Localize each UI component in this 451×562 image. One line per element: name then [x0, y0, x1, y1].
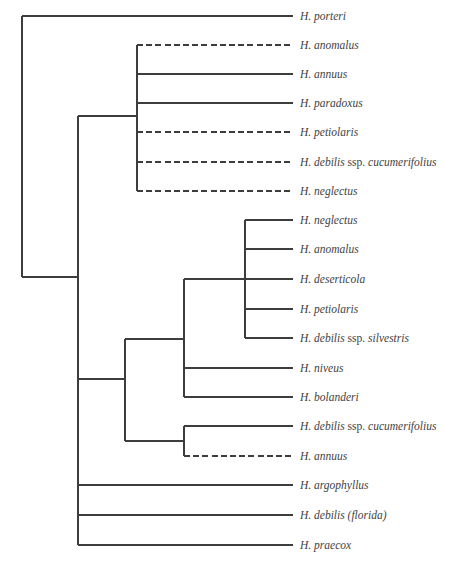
taxon-label-14-h-bolanderi: H. bolanderi	[299, 391, 359, 403]
taxon-label-8-h-neglectus: H. neglectus	[299, 214, 358, 227]
taxon-label-9-h-anomalus: H. anomalus	[299, 243, 359, 255]
taxon-label-12-h-debilis-ssp-silvestris: H. debilis ssp. silvestris	[299, 332, 409, 345]
taxon-label-6-h-debilis-ssp-cucumerifolius: H. debilis ssp. cucumerifolius	[299, 156, 437, 169]
taxon-label-10-h-deserticola: H. deserticola	[299, 273, 365, 285]
phylogenetic-tree-figure: H. porteriH. anomalusH. annuusH. paradox…	[0, 0, 451, 562]
taxon-label-17-h-argophyllus: H. argophyllus	[299, 479, 369, 492]
taxon-label-11-h-petiolaris: H. petiolaris	[299, 303, 359, 316]
taxon-label-18-h-debilis-florida: H. debilis (florida)	[299, 509, 387, 522]
taxon-label-2-h-anomalus: H. anomalus	[299, 39, 359, 51]
taxon-label-1-h-porteri: H. porteri	[299, 10, 346, 23]
cladogram-svg: H. porteriH. anomalusH. annuusH. paradox…	[0, 0, 451, 562]
taxon-label-19-h-praecox: H. praecox	[299, 539, 352, 552]
taxon-label-3-h-annuus: H. annuus	[299, 68, 348, 80]
taxon-label-13-h-niveus: H. niveus	[299, 362, 344, 374]
taxon-label-5-h-petiolaris: H. petiolaris	[299, 126, 359, 139]
taxon-label-16-h-annuus: H. annuus	[299, 450, 348, 462]
taxon-label-4-h-paradoxus: H. paradoxus	[299, 97, 363, 110]
taxon-label-15-h-debilis-ssp-cucumerifolius: H. debilis ssp. cucumerifolius	[299, 420, 437, 433]
taxon-label-7-h-neglectus: H. neglectus	[299, 185, 358, 198]
